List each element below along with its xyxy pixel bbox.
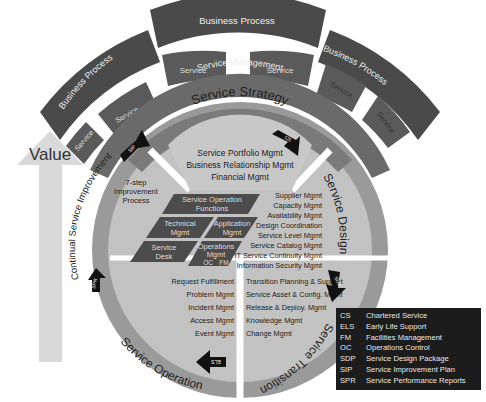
legend-text: Service Design Package — [366, 354, 449, 365]
transition-item: Transition Planning & Support — [246, 277, 343, 286]
business-process-center: Business Process — [199, 15, 275, 26]
design-item: Service Catalog Mgmt — [250, 241, 322, 250]
design-item: Availability Mgmt — [267, 211, 322, 220]
abbreviation-legend: CSChartered Service ELSEarly Life Suppor… — [336, 308, 481, 390]
legend-text: Early Life Support — [366, 322, 426, 333]
legend-abbr: SDP — [340, 354, 366, 365]
strategy-item: Financial Mgmt — [211, 172, 269, 182]
legend-abbr: ELS — [340, 322, 366, 333]
fm-label: FM — [219, 259, 228, 266]
design-item: Supplier Mgmt — [275, 191, 322, 200]
strategy-item: Service Portfolio Mgmt — [197, 148, 283, 158]
functions-header: Service Operation — [182, 195, 242, 204]
legend-row: SIPService Improvement Plan — [340, 365, 481, 376]
legend-text: Service Performance Reports — [366, 376, 466, 387]
operations-mgmt-2: Mgmt — [207, 250, 227, 259]
design-item: IT Service Continuity Mgmt — [235, 251, 322, 260]
legend-abbr: SPR — [340, 376, 366, 387]
design-item: Capacity Mgmt — [273, 201, 322, 210]
design-item: Information Security Mgmt — [237, 261, 322, 270]
operation-item: Problem Mgmt — [187, 290, 234, 299]
technical-mgmt-2: Mgmt — [171, 228, 191, 237]
transition-item: Service Asset & Config. Mgmt — [246, 290, 343, 299]
legend-row: ELSEarly Life Support — [340, 322, 481, 333]
legend-text: Chartered Service — [366, 311, 427, 322]
els-label: ELS — [211, 359, 221, 365]
transition-item: Knowledge Mgmt — [246, 316, 302, 325]
value-label: Value — [29, 145, 71, 164]
service-desk-2: Desk — [155, 252, 172, 261]
csi-process-2: Improvement — [114, 187, 159, 196]
legend-row: FMFacilities Management — [340, 333, 481, 344]
csi-process-3: Process — [122, 196, 149, 205]
oc-label: OC — [203, 259, 213, 266]
strategy-item: Business Relationship Mgmt — [186, 160, 294, 170]
design-item: Service Level Mgmt — [258, 231, 322, 240]
legend-abbr: CS — [340, 311, 366, 322]
application-mgmt: Application — [214, 219, 251, 228]
csi-process: 7-step — [126, 178, 147, 187]
application-mgmt-2: Mgmt — [223, 228, 243, 237]
legend-abbr: SIP — [340, 365, 366, 376]
operation-item: Event Mgmt — [195, 329, 234, 338]
operation-item: Access Mgmt — [190, 316, 234, 325]
service-desk: Service — [151, 243, 176, 252]
design-item: Design Coordination — [256, 221, 322, 230]
technical-mgmt: Technical — [164, 219, 196, 228]
operation-item: Request Fulfillment — [172, 277, 234, 286]
legend-text: Facilities Management — [366, 333, 442, 344]
legend-row: CSChartered Service — [340, 311, 481, 322]
transition-item: Change Mgmt — [246, 329, 292, 338]
operation-item: Incident Mgmt — [188, 303, 234, 312]
legend-abbr: OC — [340, 343, 366, 354]
legend-row: OCOperations Control — [340, 343, 481, 354]
transition-item: Release & Deploy. Mgmt — [246, 303, 326, 312]
functions-header-2: Functions — [196, 204, 229, 213]
legend-abbr: FM — [340, 333, 366, 344]
legend-text: Service Improvement Plan — [366, 365, 455, 376]
legend-text: Operations Control — [366, 343, 430, 354]
legend-row: SPRService Performance Reports — [340, 376, 481, 387]
legend-row: SDPService Design Package — [340, 354, 481, 365]
